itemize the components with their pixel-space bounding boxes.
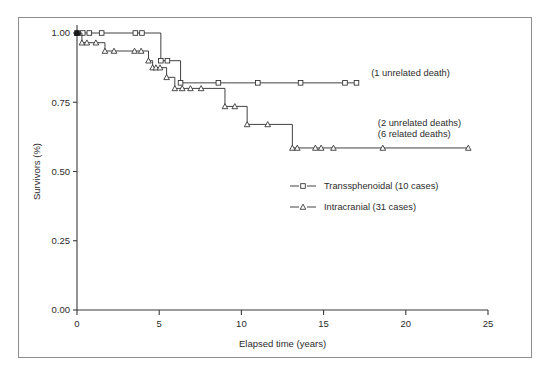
data-point-transsphenoidal (256, 81, 261, 86)
data-point-transsphenoidal (165, 58, 170, 63)
series-line-transsphenoidal (77, 33, 356, 83)
data-point-transsphenoidal (354, 81, 359, 86)
x-tick-label: 25 (483, 318, 494, 329)
legend-label-0: Transsphenoidal (10 cases) (324, 181, 438, 191)
survival-chart: 0.000.250.500.751.000510152025Elapsed ti… (0, 0, 550, 375)
x-tick-label: 15 (318, 318, 329, 329)
figure-panel: 0.000.250.500.751.000510152025Elapsed ti… (0, 0, 550, 375)
x-axis-title: Elapsed time (years) (239, 338, 326, 349)
y-tick-label: 0.75 (52, 97, 71, 108)
y-axis-title: Survivors (%) (31, 143, 42, 200)
data-point-transsphenoidal (178, 81, 183, 86)
y-tick-label: 0.50 (52, 166, 71, 177)
data-point-transsphenoidal (87, 31, 92, 36)
legend-marker-triangle (300, 204, 306, 209)
data-point-transsphenoidal (216, 81, 221, 86)
y-tick-label: 0.25 (52, 235, 71, 246)
x-tick-label: 0 (74, 318, 79, 329)
data-point-transsphenoidal (140, 31, 145, 36)
x-tick-label: 20 (401, 318, 412, 329)
data-point-transsphenoidal (133, 31, 138, 36)
legend-marker-square (301, 184, 306, 189)
data-point-transsphenoidal (298, 81, 303, 86)
legend-label-1: Intracranial (31 cases) (324, 202, 416, 212)
y-tick-label: 1.00 (52, 27, 71, 38)
annotation-transsphenoidal-end: (1 unrelated death) (371, 68, 450, 78)
x-tick-label: 5 (157, 318, 162, 329)
data-point-transsphenoidal (99, 31, 104, 36)
annotation-intracranial-end-2: (6 related deaths) (378, 129, 451, 139)
annotation-intracranial-end-1: (2 unrelated deaths) (378, 118, 461, 128)
data-point-transsphenoidal (159, 58, 164, 63)
x-tick-label: 10 (236, 318, 247, 329)
y-tick-label: 0.00 (52, 304, 71, 315)
data-point-transsphenoidal (343, 81, 348, 86)
